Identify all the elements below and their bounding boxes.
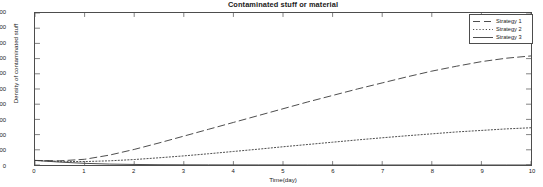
y-tick-label: 0	[0, 163, 6, 169]
y-axis-label: Density of contaminated stuff	[12, 0, 19, 139]
x-tick-label: 8	[420, 168, 444, 174]
legend-label: Strategy 1	[494, 18, 522, 24]
x-tick-label: 6	[321, 168, 345, 174]
y-tick-label: 600	[0, 117, 6, 123]
series-line-strategy-1	[35, 56, 531, 161]
chart-figure: Contaminated stuff or material Density o…	[0, 0, 543, 187]
legend-item-3[interactable]: Strategy 3	[472, 33, 530, 41]
y-tick-label: 1600	[0, 40, 6, 46]
legend-label: Strategy 3	[494, 34, 522, 40]
axis-tick-marks	[35, 13, 531, 165]
legend-line-sample-icon	[472, 18, 494, 25]
y-tick-label: 1000	[0, 86, 6, 92]
legend-label: Strategy 2	[494, 26, 522, 32]
x-tick-label: 1	[72, 168, 96, 174]
y-tick-label: 1400	[0, 55, 6, 61]
y-tick-label: 400	[0, 132, 6, 138]
x-tick-label: 5	[271, 168, 295, 174]
x-tick-label: 9	[470, 168, 494, 174]
x-tick-label: 4	[221, 168, 245, 174]
x-tick-label: 7	[371, 168, 395, 174]
x-tick-label: 10	[520, 168, 543, 174]
plot-canvas	[35, 13, 531, 165]
x-tick-label: 2	[122, 168, 146, 174]
x-tick-label: 0	[22, 168, 46, 174]
chart-title: Contaminated stuff or material	[34, 0, 532, 9]
legend-item-2[interactable]: Strategy 2	[472, 25, 530, 33]
y-tick-label: 200	[0, 147, 6, 153]
y-tick-label: 2000	[0, 9, 6, 15]
plot-area	[34, 12, 532, 166]
y-tick-label: 800	[0, 101, 6, 107]
chart-legend: Strategy 1Strategy 2Strategy 3	[469, 14, 533, 44]
legend-item-1[interactable]: Strategy 1	[472, 17, 530, 25]
series-line-strategy-2	[35, 128, 531, 162]
x-tick-label: 3	[171, 168, 195, 174]
legend-line-sample-icon	[472, 34, 494, 41]
y-tick-label: 1200	[0, 70, 6, 76]
y-tick-label: 1800	[0, 24, 6, 30]
x-axis-label: Time(day)	[34, 176, 532, 183]
legend-line-sample-icon	[472, 26, 494, 33]
data-series-group	[35, 56, 531, 165]
